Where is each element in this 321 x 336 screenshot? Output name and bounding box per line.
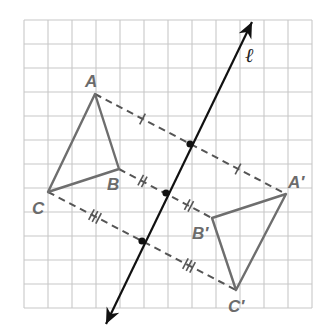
label-B-prime: B′ <box>192 224 209 243</box>
label-line-l: ℓ <box>245 43 254 67</box>
midpoint-dot <box>186 140 193 147</box>
triangle-A-primeB-primeC-prime <box>212 194 286 290</box>
midpoints <box>138 140 193 244</box>
midpoint-dot <box>138 237 145 244</box>
reflection-diagram: A B C A′ B′ C′ ℓ <box>0 0 321 336</box>
midpoint-dot <box>162 189 169 196</box>
label-A: A <box>84 72 97 91</box>
label-C: C <box>32 199 45 218</box>
reflection-line <box>106 22 252 324</box>
line-of-reflection <box>106 22 252 324</box>
label-B: B <box>107 175 119 194</box>
grid <box>24 20 312 308</box>
label-C-prime: C′ <box>228 297 245 316</box>
label-A-prime: A′ <box>287 173 305 192</box>
